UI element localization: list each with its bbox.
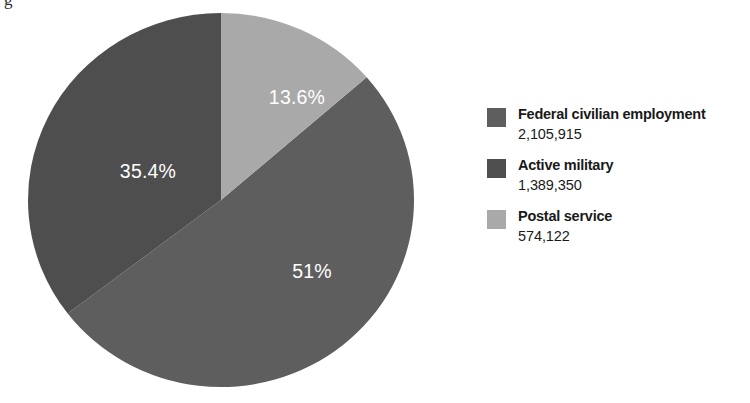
legend-swatch-federal-civilian-employment: [487, 108, 506, 127]
legend-label-federal-civilian-employment: Federal civilian employment: [518, 106, 737, 123]
pie-slice-label-active-military: 35.4%: [120, 160, 176, 182]
legend-swatch-postal-service: [487, 210, 506, 229]
pie-chart-svg: 51%35.4%13.6%: [24, 8, 418, 392]
legend-text-federal-civilian-employment: Federal civilian employment 2,105,915: [518, 106, 737, 144]
legend-label-postal-service: Postal service: [518, 208, 737, 225]
pie-chart-figure: g 51%35.4%13.6% Federal civilian employm…: [0, 0, 750, 403]
legend-item-federal-civilian-employment[interactable]: Federal civilian employment 2,105,915: [487, 106, 737, 146]
legend-swatch-active-military: [487, 159, 506, 178]
legend-label-active-military: Active military: [518, 157, 737, 174]
legend: Federal civilian employment 2,105,915 Ac…: [487, 106, 737, 259]
legend-text-postal-service: Postal service 574,122: [518, 208, 737, 246]
clipped-caption-glyph: g: [4, 0, 20, 9]
legend-value-active-military: 1,389,350: [518, 176, 737, 195]
legend-value-federal-civilian-employment: 2,105,915: [518, 125, 737, 144]
pie-chart: 51%35.4%13.6%: [24, 8, 418, 392]
legend-item-active-military[interactable]: Active military 1,389,350: [487, 157, 737, 197]
pie-slice-label-postal-service: 13.6%: [269, 86, 325, 108]
pie-slice-label-federal-civilian-employment: 51%: [292, 260, 332, 282]
legend-item-postal-service[interactable]: Postal service 574,122: [487, 208, 737, 248]
legend-text-active-military: Active military 1,389,350: [518, 157, 737, 195]
pie-slice-group: [28, 13, 414, 387]
legend-value-postal-service: 574,122: [518, 227, 737, 246]
